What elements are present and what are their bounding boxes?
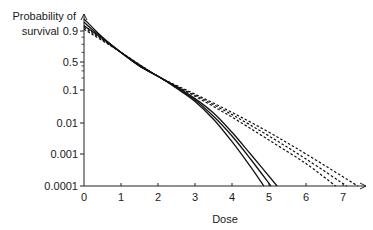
x-tick-label: 7 bbox=[340, 191, 346, 203]
x-tick-label: 6 bbox=[303, 191, 309, 203]
curve-dashed-1 bbox=[84, 26, 336, 186]
y-tick-label: 0.0001 bbox=[44, 180, 78, 192]
curve-dashed-2 bbox=[84, 27, 347, 186]
y-tick-label: 0.5 bbox=[63, 56, 78, 68]
y-axis-label-line-1: Probability of bbox=[12, 10, 77, 22]
x-tick-label: 0 bbox=[81, 191, 87, 203]
y-tick-label: 0.9 bbox=[63, 25, 78, 37]
x-axis-label: Dose bbox=[212, 213, 238, 225]
y-tick-label: 0.01 bbox=[57, 117, 78, 129]
survival-curves bbox=[84, 19, 358, 186]
curve-solid-3 bbox=[84, 26, 277, 186]
x-tick-label: 2 bbox=[155, 191, 161, 203]
survival-chart: Probability of survival 0.90.50.10.010.0… bbox=[0, 0, 373, 230]
y-axis-label-line-2: survival bbox=[22, 25, 59, 37]
y-tick-label: 0.1 bbox=[63, 84, 78, 96]
x-tick-label: 4 bbox=[229, 191, 235, 203]
x-tick-label: 5 bbox=[266, 191, 272, 203]
x-tick-label: 3 bbox=[192, 191, 198, 203]
y-axis-ticks: 0.90.50.10.010.0010.0001 bbox=[44, 25, 84, 192]
axes bbox=[81, 14, 366, 189]
curve-dashed-3 bbox=[84, 29, 358, 186]
x-tick-label: 1 bbox=[118, 191, 124, 203]
y-tick-label: 0.001 bbox=[50, 148, 78, 160]
